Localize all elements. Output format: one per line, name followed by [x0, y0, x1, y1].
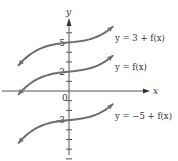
x-axis-arrow-icon — [143, 89, 150, 94]
equation-labels: y = 3 + f(x) y = f(x) y = −5 + f(x) — [114, 33, 172, 122]
curve-arrows — [19, 27, 113, 143]
curve-base — [19, 56, 113, 95]
y-axis-label: y — [65, 7, 72, 17]
curve-shift-up — [19, 27, 113, 66]
equation-label-base: y = f(x) — [114, 62, 147, 72]
origin-label: 0 — [62, 93, 68, 103]
curves — [19, 27, 113, 143]
y-axis-arrow-icon — [67, 18, 72, 26]
x-axis-label: x — [153, 86, 158, 96]
graph-figure: x y 0 5 2 -3 y = 3 + f(x) y = f(x) y = −… — [0, 0, 178, 161]
y-tick-labels: 5 2 -3 — [56, 38, 65, 126]
curve-shift-down — [19, 104, 113, 143]
equation-label-shift-up: y = 3 + f(x) — [114, 33, 165, 43]
equation-label-shift-down: y = −5 + f(x) — [114, 111, 172, 121]
